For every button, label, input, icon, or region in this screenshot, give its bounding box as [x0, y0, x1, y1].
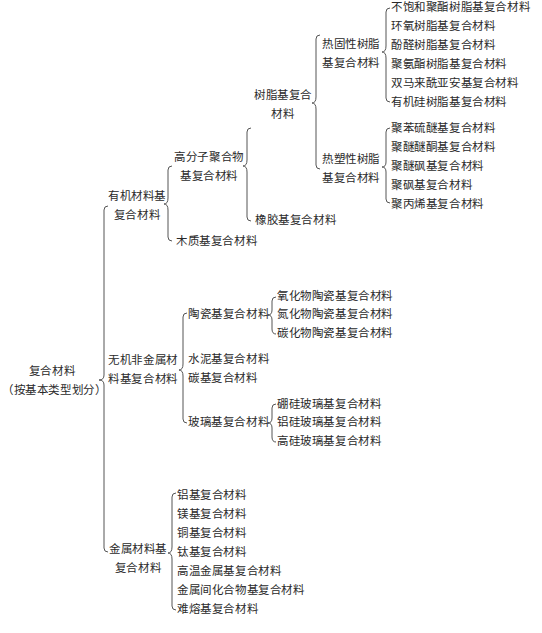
metal-line1: 金属材料基	[106, 540, 170, 559]
metal-item: 钛基复合材料	[177, 543, 247, 562]
metal-item: 高温金属基复合材料	[177, 562, 281, 581]
metal-item: 铜基复合材料	[177, 524, 247, 543]
thermoset-item: 环氧树脂基复合材料	[391, 17, 495, 36]
thermoplastic-item: 聚醚醚酮基复合材料	[391, 138, 495, 157]
inorganic-line1: 无机非金属材	[104, 351, 182, 370]
metal-item: 金属间化合物基复合材料	[177, 581, 305, 600]
organic-line2: 复合材料	[104, 206, 170, 225]
wood-node: 木质基复合材料	[176, 232, 257, 251]
ceramic-item: 氧化物陶瓷基复合材料	[277, 287, 393, 306]
metal-line2: 复合材料	[106, 559, 170, 578]
resin-node: 树脂基复合 材料	[251, 86, 315, 124]
thermoplastic-item: 聚醚砜基复合材料	[391, 157, 484, 176]
glass-item: 高硅玻璃基复合材料	[277, 432, 381, 451]
thermoplastic-line2: 基复合材料	[318, 169, 384, 188]
thermoset-item: 酚醛树脂基复合材料	[391, 36, 495, 55]
rubber-node: 橡胶基复合材料	[255, 211, 336, 230]
metal-item: 镁基复合材料	[177, 505, 247, 524]
resin-line2: 材料	[251, 105, 315, 124]
thermoplastic-item: 聚苯硫醚基复合材料	[391, 119, 495, 138]
metal-node: 金属材料基 复合材料	[106, 540, 170, 578]
thermoplastic-node: 热塑性树脂 基复合材料	[318, 150, 384, 188]
resin-line1: 树脂基复合	[251, 86, 315, 105]
metal-item: 难熔基复合材料	[177, 600, 258, 619]
organic-line1: 有机材料基	[104, 187, 170, 206]
ceramic-item: 氮化物陶瓷基复合材料	[277, 305, 393, 324]
thermoset-item: 不饱和聚酯树脂基复合材料	[391, 0, 530, 17]
thermoset-item: 有机硅树脂基复合材料	[391, 93, 507, 112]
carbon-node: 碳基复合材料	[188, 369, 258, 388]
thermoset-line2: 基复合材料	[318, 54, 384, 73]
thermoset-node: 热固性树脂 基复合材料	[318, 35, 384, 73]
thermoplastic-item: 聚砜基复合材料	[391, 176, 472, 195]
root-line2: （按基本类型划分）	[2, 381, 102, 400]
thermoplastic-line1: 热塑性树脂	[318, 150, 384, 169]
metal-item: 铝基复合材料	[177, 486, 247, 505]
inorganic-node: 无机非金属材 料基复合材料	[104, 351, 182, 389]
ceramic-node: 陶瓷基复合材料	[188, 305, 269, 324]
glass-item: 硼硅玻璃基复合材料	[277, 395, 381, 414]
thermoset-line1: 热固性树脂	[318, 35, 384, 54]
thermoplastic-item: 聚丙烯基复合材料	[391, 195, 484, 214]
polymer-node: 高分子聚合物 基复合材料	[172, 148, 246, 186]
glass-item: 铝硅玻璃基复合材料	[277, 413, 381, 432]
thermoset-item: 聚氨酯树脂基复合材料	[391, 55, 507, 74]
ceramic-item: 碳化物陶瓷基复合材料	[277, 324, 393, 343]
cement-node: 水泥基复合材料	[188, 350, 269, 369]
thermoset-item: 双马来酰亚安基复合材料	[391, 74, 519, 93]
polymer-line2: 基复合材料	[172, 167, 246, 186]
root-line1: 复合材料	[2, 362, 102, 381]
polymer-line1: 高分子聚合物	[172, 148, 246, 167]
inorganic-line2: 料基复合材料	[104, 370, 182, 389]
organic-node: 有机材料基 复合材料	[104, 187, 170, 225]
glass-node: 玻璃基复合材料	[188, 413, 269, 432]
root-node: 复合材料 （按基本类型划分）	[2, 362, 102, 400]
